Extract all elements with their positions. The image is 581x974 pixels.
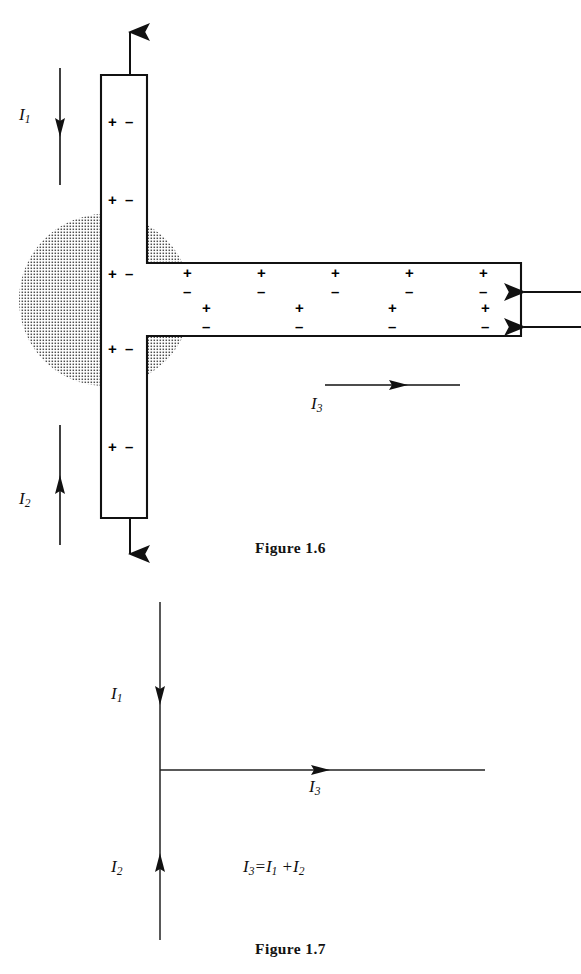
charge-minus: – [257, 283, 265, 300]
charge-plus: + [331, 264, 340, 281]
current-label-i3-fig16: I3 [311, 394, 322, 414]
charge-minus: – [479, 283, 487, 300]
charge-minus: – [388, 318, 396, 335]
figure-caption-1-6: Figure 1.6 [0, 539, 581, 557]
charge-minus: – [125, 191, 133, 208]
charge-plus: + [108, 265, 117, 282]
charge-plus: + [295, 299, 304, 316]
charge-plus: + [183, 264, 192, 281]
charge-plus: + [202, 299, 211, 316]
charge-plus: + [481, 299, 490, 316]
charge-minus: – [405, 283, 413, 300]
charge-plus: + [479, 264, 488, 281]
charge-plus: + [108, 113, 117, 130]
kirchhoff-current-equation: I3=I1 +I2 [243, 857, 304, 877]
charge-minus: – [125, 340, 133, 357]
current-label-i2-fig16: I2 [19, 489, 30, 509]
figure-sheet: + – + – + – + – + – + – + – + – + – + – … [0, 0, 581, 974]
charge-plus: + [108, 438, 117, 455]
charge-minus: – [125, 265, 133, 282]
figure-caption-1-7: Figure 1.7 [0, 940, 581, 958]
charge-plus: + [108, 340, 117, 357]
charge-minus: – [331, 283, 339, 300]
charge-minus: – [202, 318, 210, 335]
current-label-i1-fig17: I1 [111, 684, 122, 704]
figures-vector-canvas [0, 0, 581, 974]
charge-minus: – [481, 318, 489, 335]
current-label-i1-fig16: I1 [19, 105, 30, 125]
charge-plus: + [108, 191, 117, 208]
current-label-i2-fig17: I2 [111, 857, 122, 877]
charge-minus: – [183, 283, 191, 300]
charge-minus: – [295, 318, 303, 335]
charge-plus: + [257, 264, 266, 281]
charge-plus: + [405, 264, 414, 281]
charge-minus: – [125, 438, 133, 455]
conductor-body [101, 75, 521, 518]
charge-plus: + [388, 299, 397, 316]
charge-minus: – [125, 113, 133, 130]
current-label-i3-fig17: I3 [309, 777, 320, 797]
